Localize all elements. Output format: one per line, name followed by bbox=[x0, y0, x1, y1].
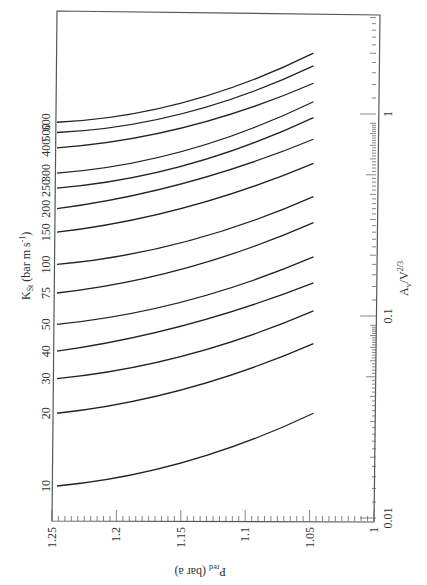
kst-curve-400 bbox=[57, 83, 313, 148]
chart-canvas: 1.251.21.151.11.051 0.010.11 10203040507… bbox=[0, 0, 427, 585]
kst-label-30: 30 bbox=[39, 373, 53, 385]
kst-curve-200 bbox=[57, 139, 313, 208]
kst-curve-100 bbox=[57, 197, 313, 265]
a-tick-label: 1 bbox=[381, 111, 395, 117]
a-axis-ticks bbox=[360, 18, 376, 518]
a-axis-tick-labels: 0.010.11 bbox=[381, 111, 395, 529]
kst-label-600: 600 bbox=[39, 113, 53, 131]
p-tick-label: 1.05 bbox=[303, 527, 317, 548]
kst-axis-title: KSt (bar m s-1) bbox=[18, 232, 35, 300]
kst-curves bbox=[57, 53, 313, 486]
p-axis-tick-labels: 1.251.21.151.11.051 bbox=[45, 527, 381, 548]
kst-label-50: 50 bbox=[39, 318, 53, 330]
plot-frame bbox=[52, 11, 380, 522]
kst-curve-250 bbox=[57, 118, 313, 188]
kst-label-200: 200 bbox=[39, 200, 53, 218]
kst-curve-75 bbox=[57, 223, 313, 293]
a-tick-label: 0.01 bbox=[381, 508, 395, 529]
kst-label-10: 10 bbox=[39, 480, 53, 492]
kst-curve-50 bbox=[57, 257, 313, 324]
kst-curve-20 bbox=[57, 344, 313, 414]
p-tick-label: 1.15 bbox=[174, 527, 188, 548]
p-axis-ticks bbox=[52, 510, 374, 521]
kst-curve-40 bbox=[57, 283, 313, 351]
kst-label-40: 40 bbox=[39, 345, 53, 357]
kst-label-150: 150 bbox=[39, 223, 53, 241]
p-tick-label: 1.2 bbox=[109, 527, 123, 542]
pred-axis-title: Pred (bar a) bbox=[174, 563, 226, 579]
kst-curve-10 bbox=[57, 413, 313, 486]
kst-label-75: 75 bbox=[39, 287, 53, 299]
p-tick-label: 1.1 bbox=[238, 527, 252, 542]
kst-label-300: 300 bbox=[39, 164, 53, 182]
av-axis-title: Av/V2/3 bbox=[396, 261, 413, 296]
kst-label-20: 20 bbox=[39, 407, 53, 419]
p-tick-label: 1.25 bbox=[45, 527, 59, 548]
kst-curve-150 bbox=[57, 163, 313, 232]
kst-curve-600 bbox=[57, 53, 313, 122]
p-tick-label: 1 bbox=[367, 527, 381, 533]
a-tick-label: 0.1 bbox=[381, 309, 395, 324]
kst-label-100: 100 bbox=[39, 255, 53, 273]
kst-curve-labels: 102030405075100150200250300400500600 bbox=[39, 113, 53, 492]
